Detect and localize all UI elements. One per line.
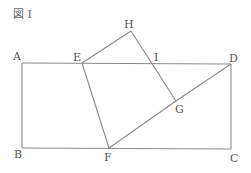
geometry-figure: 図 I A B C D E F G H I (0, 0, 251, 173)
segment-AD (22, 63, 231, 64)
label-E: E (73, 51, 81, 64)
label-D: D (229, 52, 238, 65)
segment-FG (109, 101, 176, 148)
label-C: C (230, 152, 238, 165)
label-B: B (14, 148, 22, 161)
label-I: I (154, 51, 158, 64)
label-A: A (12, 50, 22, 63)
segment-EH (82, 31, 131, 63)
segment-EF (82, 63, 109, 148)
segment-HG (131, 31, 176, 101)
figure-title: 図 I (13, 8, 32, 21)
segment-BC (22, 148, 231, 149)
label-G: G (175, 103, 184, 116)
label-H: H (124, 18, 134, 31)
segment-GD (176, 64, 231, 101)
figure-canvas: 図 I A B C D E F G H I (0, 0, 251, 173)
label-F: F (104, 151, 112, 164)
